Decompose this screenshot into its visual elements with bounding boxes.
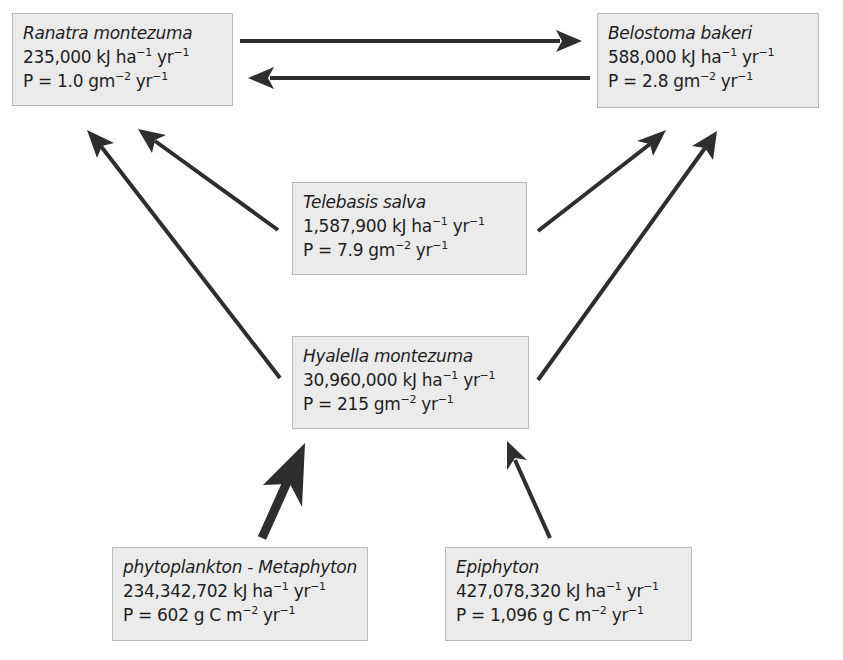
energy-value: 427,078,320 kJ ha−1 yr−1	[456, 579, 691, 603]
energy-value: 30,960,000 kJ ha−1 yr−1	[303, 368, 528, 392]
arrow-telebasis-to-belostoma	[538, 130, 666, 231]
arrow-belostoma-to-ranatra	[248, 67, 590, 89]
production-value: P = 1,096 g C m−2 yr−1	[456, 603, 691, 627]
production-value: P = 1.0 gm−2 yr−1	[23, 69, 232, 93]
arrow-epiphyton-to-hyalella	[507, 441, 550, 538]
production-value: P = 602 g C m−2 yr−1	[123, 603, 367, 627]
node-hyalella-montezuma: Hyalella montezuma 30,960,000 kJ ha−1 yr…	[292, 336, 529, 429]
energy-value: 588,000 kJ ha−1 yr−1	[608, 45, 818, 69]
node-phytoplankton-metaphyton: phytoplankton - Metaphyton 234,342,702 k…	[112, 547, 368, 641]
arrow-telebasis-to-ranatra	[138, 129, 278, 230]
energy-value: 235,000 kJ ha−1 yr−1	[23, 45, 232, 69]
node-belostoma-bakeri: Belostoma bakeri 588,000 kJ ha−1 yr−1 P …	[597, 13, 819, 108]
node-ranatra-montezuma: Ranatra montezuma 235,000 kJ ha−1 yr−1 P…	[12, 13, 233, 106]
arrow-hyalella-to-ranatra	[87, 130, 280, 378]
arrow-phytoplankton-to-hyalella	[262, 443, 305, 538]
species-name: phytoplankton - Metaphyton	[123, 555, 367, 579]
production-value: P = 215 gm−2 yr−1	[303, 392, 528, 416]
production-value: P = 7.9 gm−2 yr−1	[303, 238, 526, 262]
species-name: Epiphyton	[456, 555, 691, 579]
species-name: Telebasis salva	[303, 190, 526, 214]
node-epiphyton: Epiphyton 427,078,320 kJ ha−1 yr−1 P = 1…	[445, 547, 692, 641]
energy-value: 1,587,900 kJ ha−1 yr−1	[303, 214, 526, 238]
production-value: P = 2.8 gm−2 yr−1	[608, 69, 818, 93]
species-name: Hyalella montezuma	[303, 344, 528, 368]
node-telebasis-salva: Telebasis salva 1,587,900 kJ ha−1 yr−1 P…	[292, 182, 527, 275]
species-name: Belostoma bakeri	[608, 21, 818, 45]
species-name: Ranatra montezuma	[23, 21, 232, 45]
arrow-hyalella-to-belostoma	[538, 131, 717, 380]
arrow-ranatra-to-belostoma	[240, 30, 582, 52]
energy-value: 234,342,702 kJ ha−1 yr−1	[123, 579, 367, 603]
